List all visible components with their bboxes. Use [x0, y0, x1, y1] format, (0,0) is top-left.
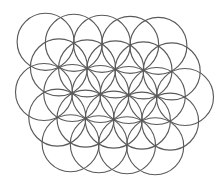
circle-pattern-diagram — [0, 0, 224, 184]
circle-group — [16, 13, 214, 174]
